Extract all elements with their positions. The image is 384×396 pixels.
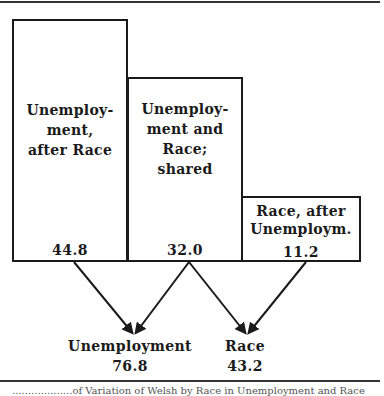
total-race: Race 43.2 [215,336,275,376]
total-value: 76.8 [60,356,200,376]
total-unemployment: Unemployment 76.8 [60,336,200,376]
bottom-rule [0,380,380,382]
caption: ...................of Variation of Welsh… [12,385,365,396]
total-label: Race [215,336,275,356]
total-label: Unemployment [60,336,200,356]
total-value: 43.2 [215,356,275,376]
